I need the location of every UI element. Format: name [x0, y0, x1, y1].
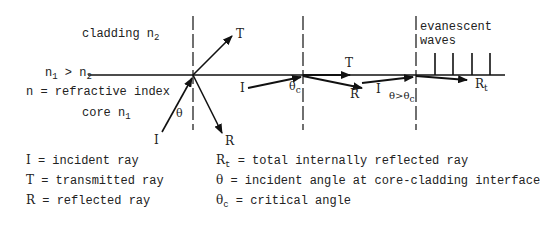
reflected-ray-1 [193, 75, 222, 133]
angle-label-1: θ [176, 107, 183, 121]
angle-label-3: θ>θc [389, 89, 414, 103]
ray-label-I-2: I [240, 81, 245, 95]
legend-item: Rt = total internally reflected ray [216, 150, 540, 170]
ray-label-T-1: T [236, 27, 244, 41]
ray-label-I-1: I [154, 133, 159, 147]
legend-item: I = incident ray [26, 150, 164, 170]
transmitted-ray-1 [193, 36, 232, 75]
incident-ray-3 [362, 77, 413, 83]
cladding-label: cladding n2 [82, 27, 159, 41]
evanescent-label: evanescent waves [420, 20, 492, 48]
ray-label-R-2: R [350, 87, 359, 101]
legend-left: I = incident ray T = transmitted ray R =… [26, 150, 164, 210]
ray-label-T-2: T [345, 56, 353, 70]
legend-item: θc = critical angle [216, 190, 540, 210]
legend-item: T = transmitted ray [26, 170, 164, 190]
core-label: core n1 [82, 106, 131, 120]
legend-item: R = reflected ray [26, 190, 164, 210]
legend-right: Rt = total internally reflected ray θ = … [216, 150, 540, 210]
angle-label-2: θc [289, 80, 301, 94]
index-relation-label: n1 > n2 [45, 66, 92, 80]
refractive-index-label: n = refractive index [26, 85, 170, 99]
ray-label-Rt: Rt [475, 77, 488, 91]
tir-ray [416, 76, 467, 80]
ray-label-R-1: R [225, 134, 234, 148]
legend-item: θ = incident angle at core-cladding inte… [216, 170, 540, 190]
ray-label-I-3: I [376, 82, 381, 96]
